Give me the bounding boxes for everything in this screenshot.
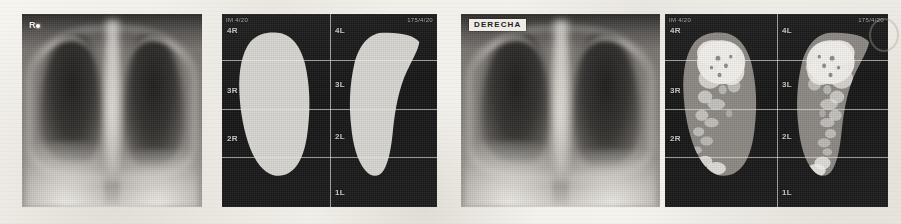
left-lung-mask bbox=[345, 31, 422, 178]
overlay-image-4: 4R 3R 2R 4L 3L 2L 1L IM 4/20 175/4/20 bbox=[665, 14, 888, 207]
zone-grid-line-v1 bbox=[330, 14, 331, 207]
acquisition-text-top-left-4: IM 4/20 bbox=[669, 17, 691, 23]
acquisition-text-top-left-2: IM 4/20 bbox=[226, 17, 248, 23]
right-lung-mask bbox=[237, 31, 314, 178]
right-hemidiaphragm bbox=[26, 141, 105, 207]
laterality-annotation-derecha: DERECHA bbox=[469, 19, 526, 31]
radiograph-figure: R 4R 3R 2R 4L bbox=[0, 0, 901, 224]
zone-label-3l: 3L bbox=[782, 80, 792, 89]
left-hemidiaphragm bbox=[568, 149, 656, 207]
zone-label-3r: 3R bbox=[670, 86, 681, 95]
acquisition-text-top-right-2: 175/4/20 bbox=[407, 17, 433, 23]
mediastinum-spine bbox=[554, 20, 569, 174]
zone-label-4l: 4L bbox=[782, 26, 792, 35]
acquisition-text-top-right-4: 175/4/20 bbox=[858, 17, 884, 23]
zone-label-4r: 4R bbox=[670, 26, 681, 35]
zone-label-2l: 2L bbox=[782, 132, 792, 141]
zone-label-1l: 1L bbox=[782, 188, 792, 197]
mediastinum-spine bbox=[106, 20, 120, 174]
right-lung-mask-overlay bbox=[681, 31, 761, 178]
panel-chest-radiograph-1[interactable]: R bbox=[22, 14, 202, 207]
left-hemidiaphragm bbox=[119, 149, 198, 207]
calibration-dot-icon bbox=[36, 24, 40, 28]
zone-grid-line-v1 bbox=[777, 14, 778, 207]
left-lung-mask-overlay bbox=[792, 31, 872, 178]
zone-label-2r: 2R bbox=[670, 134, 681, 143]
segmentation-image-2: 4R 3R 2R 4L 3L 2L 1L IM 4/20 175/4/20 bbox=[222, 14, 437, 207]
radiograph-image-1 bbox=[22, 14, 202, 207]
right-hemidiaphragm bbox=[465, 141, 553, 207]
panel-chest-radiograph-3[interactable]: DERECHA bbox=[461, 14, 660, 207]
zone-label-1l: 1L bbox=[335, 188, 345, 197]
panel-lung-segmentation-2[interactable]: 4R 3R 2R 4L 3L 2L 1L IM 4/20 175/4/20 bbox=[222, 14, 437, 207]
side-marker-r: R bbox=[29, 20, 36, 30]
radiograph-image-3 bbox=[461, 14, 660, 207]
panel-lung-overlay-4[interactable]: 4R 3R 2R 4L 3L 2L 1L IM 4/20 175/4/20 bbox=[665, 14, 888, 207]
